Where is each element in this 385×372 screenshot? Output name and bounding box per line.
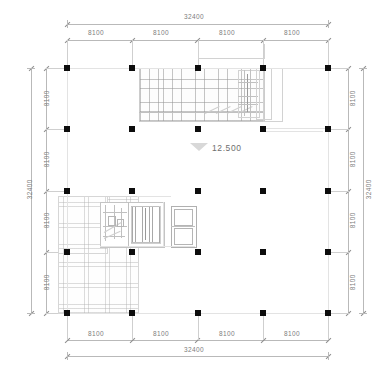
grid-ext-line	[328, 313, 329, 340]
column-grid-marker	[260, 188, 266, 194]
upper-shaft-outer	[256, 68, 272, 120]
grid-ext-line	[67, 313, 68, 340]
grid-ext-line	[132, 313, 133, 340]
column-grid-marker	[64, 188, 70, 194]
dim-bottom-overall-line	[67, 356, 328, 357]
stair-center-line	[145, 208, 146, 240]
column-grid-marker	[195, 188, 201, 194]
partition-line	[100, 246, 195, 247]
dim-top-seg-4: 8100	[284, 30, 300, 37]
elevator-cab-2	[174, 228, 193, 245]
column-grid-marker	[129, 65, 135, 71]
column-grid-marker	[64, 249, 70, 255]
top-stub-outline	[198, 44, 266, 59]
core-equipment-box	[108, 216, 116, 226]
stair-treads	[131, 206, 161, 244]
dim-ext	[27, 313, 35, 314]
grid-ext-line	[67, 40, 68, 68]
dim-bottom-seg-3: 8100	[219, 331, 235, 338]
slab-edge-line	[263, 128, 328, 129]
column-grid-marker	[64, 310, 70, 316]
column-grid-marker	[129, 310, 135, 316]
stair-landing-line	[131, 206, 159, 207]
column-grid-marker	[129, 249, 135, 255]
slab-edge-line	[263, 131, 323, 132]
dim-ext	[67, 352, 68, 360]
column-grid-marker	[195, 249, 201, 255]
dim-left-overall-text: 32400	[27, 164, 34, 214]
column-grid-marker	[195, 65, 201, 71]
dim-right-seg-3: 8100	[350, 200, 357, 240]
column-grid-marker	[129, 188, 135, 194]
column-grid-marker	[325, 65, 331, 71]
dim-ext	[328, 352, 329, 360]
dim-ext	[359, 313, 367, 314]
dim-top-overall-text: 32400	[184, 14, 204, 21]
grid-ext-line	[328, 40, 329, 68]
dim-bottom-seg-4: 8100	[284, 331, 300, 338]
column-grid-marker	[325, 126, 331, 132]
dim-top-seg-2: 8100	[153, 30, 169, 37]
stair-landing-line	[131, 242, 159, 243]
dim-ext	[328, 20, 329, 28]
dim-right-seg-4: 8100	[350, 262, 357, 302]
elevator-divider	[171, 226, 195, 227]
column-grid-marker	[325, 310, 331, 316]
column-grid-marker	[129, 126, 135, 132]
shaft-line	[238, 104, 258, 105]
column-grid-marker	[195, 126, 201, 132]
elevation-triangle-icon	[190, 143, 208, 151]
stair-wall-line	[128, 202, 129, 246]
grid-ext-line	[198, 313, 199, 340]
dim-left-seg-2: 8100	[44, 139, 51, 179]
dim-top-seg-3: 8100	[219, 30, 235, 37]
dim-right-seg-2: 8100	[350, 139, 357, 179]
shaft-line	[238, 82, 258, 83]
grid-ext-line	[132, 40, 133, 68]
shaft-center-line	[247, 74, 248, 112]
core-wall-line	[103, 212, 127, 213]
dim-left-seg-3: 8100	[44, 200, 51, 240]
shaft-line	[238, 96, 258, 97]
elevation-value: 12.500	[212, 143, 242, 153]
dim-bottom-seg-1: 8100	[88, 331, 104, 338]
partition-line	[137, 196, 171, 197]
column-grid-marker	[64, 126, 70, 132]
column-grid-marker	[260, 310, 266, 316]
dim-ext	[27, 68, 35, 69]
dim-bottom-overall-text: 32400	[184, 347, 204, 354]
shaft-line	[244, 70, 245, 116]
grid-ext-line	[263, 313, 264, 340]
column-grid-marker	[195, 310, 201, 316]
column-grid-marker	[64, 65, 70, 71]
elevator-cab-1	[174, 209, 193, 226]
dim-ext	[359, 68, 367, 69]
dim-top-overall-line	[67, 24, 328, 25]
partition-line	[163, 202, 164, 246]
column-grid-marker	[260, 249, 266, 255]
dim-bottom-seg-2: 8100	[153, 331, 169, 338]
dim-ext	[67, 20, 68, 28]
column-grid-marker	[325, 188, 331, 194]
floor-plan-canvas: 32400 8100 8100 8100 8100 8100 8100 8100…	[0, 0, 385, 372]
shaft-line	[250, 70, 251, 116]
dim-left-seg-1: 8100	[44, 78, 51, 118]
dim-right-seg-1: 8100	[350, 78, 357, 118]
column-grid-marker	[260, 126, 266, 132]
dim-left-seg-4: 8100	[44, 262, 51, 302]
column-grid-marker	[260, 65, 266, 71]
column-grid-marker	[325, 249, 331, 255]
core-equipment-box	[117, 219, 124, 227]
dim-top-seg-1: 8100	[88, 30, 104, 37]
dim-right-overall-text: 32400	[366, 164, 373, 214]
